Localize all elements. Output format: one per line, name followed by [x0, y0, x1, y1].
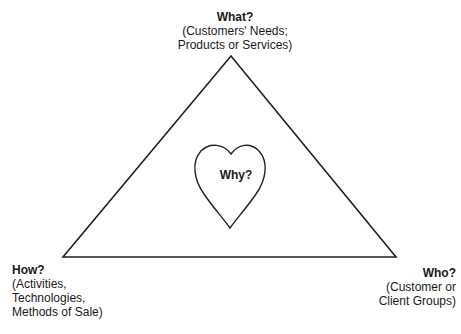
- how-desc-line-1: (Activities,: [12, 277, 152, 291]
- what-desc-line-1: (Customers' Needs;: [160, 24, 310, 38]
- how-vertex-label: How? (Activities, Technologies, Methods …: [12, 263, 152, 319]
- who-desc-line-1: (Customer or: [330, 280, 456, 294]
- what-vertex-label: What? (Customers' Needs; Products or Ser…: [160, 10, 310, 52]
- why-center-label: Why?: [218, 168, 254, 182]
- how-title: How?: [12, 263, 152, 277]
- how-desc-line-3: Methods of Sale): [12, 305, 152, 319]
- what-desc-line-2: Products or Services): [160, 38, 310, 52]
- who-vertex-label: Who? (Customer or Client Groups): [330, 266, 456, 308]
- who-title: Who?: [330, 266, 456, 280]
- how-desc-line-2: Technologies,: [12, 291, 152, 305]
- what-title: What?: [160, 10, 310, 24]
- heart-icon: [195, 145, 265, 228]
- who-desc-line-2: Client Groups): [330, 294, 456, 308]
